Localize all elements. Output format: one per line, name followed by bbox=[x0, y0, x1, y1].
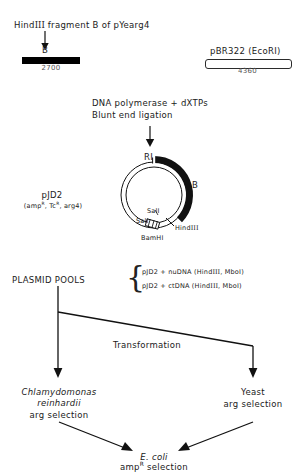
fragment-b-label: B bbox=[38, 45, 52, 56]
site-label-hindiii-roman: III bbox=[191, 224, 199, 232]
pjd2-markers-suffix: , arg4) bbox=[59, 202, 82, 210]
site-label-bamhi: BamHI bbox=[141, 234, 164, 242]
host-chlamydomonas-line1: Chlamydomonas bbox=[6, 387, 112, 398]
pbr322-label: pBR322 (EcoRI) bbox=[210, 46, 281, 57]
hindiii-fragment-title-prefix: Hind bbox=[14, 20, 35, 30]
pjd2-markers-mid: , Tc bbox=[45, 202, 56, 210]
pjd2-markers: (ampR, TcR, arg4) bbox=[10, 202, 96, 210]
ecoli-amp-prefix: amp bbox=[120, 462, 140, 472]
host-yeast: Yeast bbox=[205, 387, 301, 398]
arrow-ligation-to-plasmid bbox=[143, 126, 157, 148]
host-chlamydomonas-line2: reinhardii bbox=[6, 398, 112, 409]
pjd2-name: pJD2 bbox=[20, 190, 84, 201]
site-label-insert-b: B bbox=[192, 180, 198, 191]
hindiii-fragment-title-suffix: fragment B of pYearg4 bbox=[45, 20, 150, 30]
fragment-b-size: 2700 bbox=[22, 64, 80, 72]
fragment-b-bar bbox=[22, 57, 80, 64]
pool-item-nudna-text: pJD2 + nuDNA (Hind bbox=[142, 268, 212, 276]
ecoli-amp-suffix: selection bbox=[144, 462, 188, 472]
site-label-sali-lower: SalI bbox=[136, 217, 149, 225]
site-label-hindiii: HindIII bbox=[175, 224, 198, 232]
transformation-label: Transformation bbox=[113, 340, 181, 351]
site-label-hindiii-prefix: Hind bbox=[175, 224, 191, 232]
blunt-end-ligation-line: Blunt end ligation bbox=[92, 110, 173, 121]
dna-polymerase-line: DNA polymerase + dXTPs bbox=[92, 98, 208, 109]
pool-item-nudna: pJD2 + nuDNA (HindIII, MboI) bbox=[142, 268, 244, 276]
plasmid-pools-label: PLASMID POOLS bbox=[12, 275, 85, 286]
pbr322-size: 4360 bbox=[205, 67, 290, 75]
site-label-ri: RI bbox=[144, 152, 153, 163]
pool-item-nudna-tail: , MboI) bbox=[220, 268, 244, 276]
ecoli-amp-selection: ampR selection bbox=[96, 462, 212, 473]
hindiii-fragment-title: HindIII fragment B of pYearg4 bbox=[14, 20, 150, 31]
site-label-sali-upper: SalI bbox=[147, 207, 160, 215]
pjd2-markers-prefix: (amp bbox=[24, 202, 42, 210]
yeast-arg-selection: arg selection bbox=[205, 399, 301, 410]
hindiii-fragment-title-roman: III bbox=[35, 20, 45, 30]
